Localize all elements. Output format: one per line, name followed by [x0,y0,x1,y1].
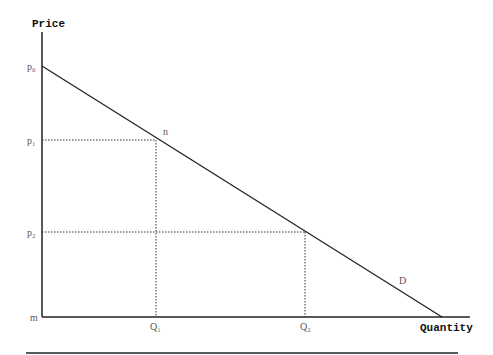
demand-curve [42,66,442,317]
origin-label: m [30,312,38,323]
demand-label: D [399,275,406,286]
q2-label: Q₂ [300,321,311,332]
p2-label: p₂ [27,227,36,238]
q1-label: Q₁ [150,321,161,332]
point-n-label: n [163,126,168,137]
demand-diagram: Price Quantity m p₀ p₁ p₂ Q₁ Q₂ n D [0,0,493,355]
y-axis-label: Price [32,18,65,30]
x-axis-label: Quantity [420,322,473,334]
p1-label: p₁ [27,135,36,146]
p0-label: p₀ [27,61,36,72]
